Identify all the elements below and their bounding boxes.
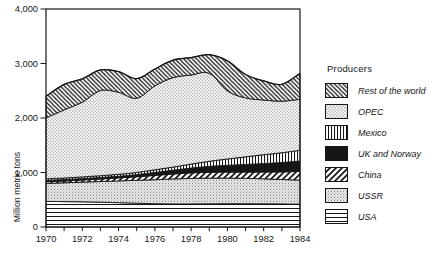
x-tick-label: 1970 [36, 234, 57, 244]
x-tick-label: 1982 [253, 234, 274, 244]
x-tick-label: 1980 [217, 234, 238, 244]
legend-title: Producers [327, 63, 435, 74]
x-tick-label: 1972 [72, 234, 93, 244]
legend-label-usa: USA [358, 212, 377, 222]
x-axis: 19701972197419761978198019821984 [36, 227, 311, 244]
legend-label-uk-and-norway: UK and Norway [358, 149, 421, 159]
y-tick-label: 4,000 [15, 4, 38, 14]
legend-label-rest-of-the-world: Rest of the world [358, 86, 426, 96]
x-tick-label: 1978 [181, 234, 202, 244]
y-tick-label: 3,000 [15, 59, 38, 69]
legend-swatch-china [325, 167, 348, 182]
legend-item-opec: OPEC [325, 104, 435, 119]
legend-swatch-usa [325, 209, 348, 224]
x-tick-label: 1984 [290, 234, 311, 244]
legend-item-usa: USA [325, 209, 435, 224]
legend-swatch-opec [325, 104, 348, 119]
legend-swatch-ussr [325, 188, 348, 203]
legend-swatch-rest-of-the-world [325, 83, 348, 98]
legend-swatch-mexico [325, 125, 348, 140]
legend-item-uk-and-norway: UK and Norway [325, 146, 435, 161]
oil-production-figure: 01,0002,0003,0004,0001970197219741976197… [0, 0, 437, 261]
legend-swatch-uk-and-norway [325, 146, 348, 161]
series-area-usa [46, 201, 300, 227]
legend-item-mexico: Mexico [325, 125, 435, 140]
y-tick-label: 0 [33, 222, 38, 232]
x-tick-label: 1974 [108, 234, 129, 244]
x-tick-label: 1976 [145, 234, 166, 244]
y-axis-title: Million metric tons [12, 151, 22, 222]
y-tick-label: 2,000 [15, 113, 38, 123]
legend-item-ussr: USSR [325, 188, 435, 203]
legend: Producers Rest of the worldOPECMexicoUK … [325, 63, 435, 224]
legend-label-opec: OPEC [358, 107, 384, 117]
plot-area [46, 55, 300, 227]
legend-item-china: China [325, 167, 435, 182]
legend-label-china: China [358, 170, 382, 180]
legend-items: Rest of the worldOPECMexicoUK and Norway… [325, 83, 435, 224]
legend-label-mexico: Mexico [358, 128, 387, 138]
legend-label-ussr: USSR [358, 191, 383, 201]
legend-item-rest-of-the-world: Rest of the world [325, 83, 435, 98]
